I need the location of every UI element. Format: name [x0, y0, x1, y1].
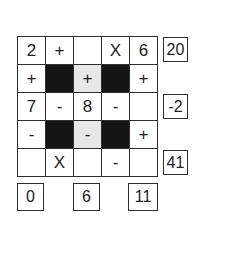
- math-crossword-puzzle: 2+X6+++7-8---+X- 20 -2 41 0 6 11: [0, 0, 225, 269]
- answer-cell-r5c5[interactable]: [130, 149, 158, 177]
- row-result-box-3: 41: [163, 150, 188, 175]
- grid-row-3: 7-8-: [18, 93, 158, 121]
- grid-row-5: X-: [18, 149, 158, 177]
- blocked-cell-r4c4: [102, 121, 130, 149]
- operator-cell-r4c3: -: [74, 121, 102, 149]
- operator-cell-r1c4: X: [102, 37, 130, 65]
- operator-cell-r2c1: +: [18, 65, 46, 93]
- given-number-cell-r3c1: 7: [18, 93, 46, 121]
- grid-row-4: --+: [18, 121, 158, 149]
- row-result-box-1: 20: [163, 37, 188, 62]
- blocked-cell-r2c2: [46, 65, 74, 93]
- given-number-cell-r1c5: 6: [130, 37, 158, 65]
- answer-cell-r5c3[interactable]: [74, 149, 102, 177]
- operator-cell-r4c5: +: [130, 121, 158, 149]
- puzzle-grid-body: 2+X6+++7-8---+X-: [18, 37, 158, 177]
- puzzle-grid: 2+X6+++7-8---+X-: [17, 36, 158, 177]
- row-result-box-2: -2: [163, 94, 188, 119]
- column-result-box-3: 11: [128, 183, 158, 211]
- blocked-cell-r2c4: [102, 65, 130, 93]
- operator-cell-r5c4: -: [102, 149, 130, 177]
- column-result-box-2: 6: [73, 183, 100, 211]
- answer-cell-r5c1[interactable]: [18, 149, 46, 177]
- grid-row-2: +++: [18, 65, 158, 93]
- operator-cell-r4c1: -: [18, 121, 46, 149]
- operator-cell-r1c2: +: [46, 37, 74, 65]
- answer-cell-r3c5[interactable]: [130, 93, 158, 121]
- operator-cell-r5c2: X: [46, 149, 74, 177]
- operator-cell-r2c5: +: [130, 65, 158, 93]
- answer-cell-r1c3[interactable]: [74, 37, 102, 65]
- grid-row-1: 2+X6: [18, 37, 158, 65]
- operator-cell-r3c4: -: [102, 93, 130, 121]
- blocked-cell-r4c2: [46, 121, 74, 149]
- column-result-box-1: 0: [17, 183, 44, 211]
- given-number-cell-r3c3: 8: [74, 93, 102, 121]
- operator-cell-r2c3: +: [74, 65, 102, 93]
- operator-cell-r3c2: -: [46, 93, 74, 121]
- given-number-cell-r1c1: 2: [18, 37, 46, 65]
